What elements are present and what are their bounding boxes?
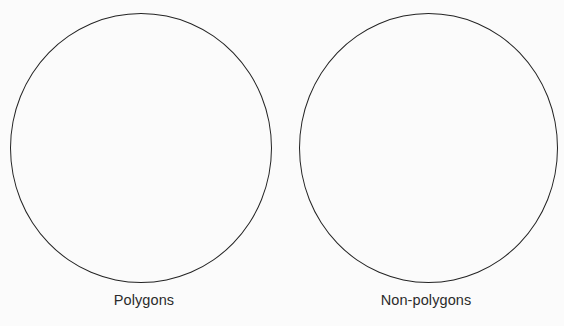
sort-group-polygons: Polygons <box>0 0 282 326</box>
polygons-circle-contents[interactable] <box>11 14 271 282</box>
worksheet-page: Polygons Non-polygons <box>0 0 564 326</box>
non-polygons-label: Non-polygons <box>285 291 564 309</box>
sort-group-non-polygons: Non-polygons <box>282 0 564 326</box>
polygons-circle[interactable] <box>10 13 272 283</box>
non-polygons-circle[interactable] <box>299 13 558 283</box>
polygons-label: Polygons <box>3 291 285 309</box>
non-polygons-circle-contents[interactable] <box>300 14 557 282</box>
